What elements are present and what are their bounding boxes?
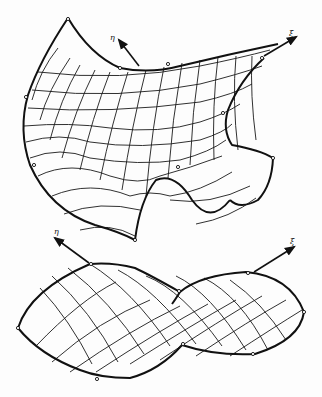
bottom-surface: η ξ <box>16 227 305 381</box>
top-xi-label: ξ <box>289 29 294 38</box>
diagram-canvas: η ξ <box>0 0 322 397</box>
bottom-surface-mesh <box>36 264 302 372</box>
top-eta-arrow <box>119 40 139 66</box>
top-surface-boundary-top <box>68 18 278 71</box>
surfaces-drawing: η ξ <box>0 0 322 397</box>
bottom-xi-label: ξ <box>290 237 295 246</box>
bottom-surface-boundary <box>18 264 304 379</box>
bottom-eta-label: η <box>54 227 59 236</box>
bottom-eta-arrow <box>55 238 89 263</box>
bottom-xi-arrow <box>254 247 294 272</box>
top-surface-fold <box>135 178 230 240</box>
top-eta-label: η <box>110 33 115 42</box>
top-surface-boundary-right <box>226 58 273 205</box>
top-surface: η ξ <box>23 17 296 241</box>
